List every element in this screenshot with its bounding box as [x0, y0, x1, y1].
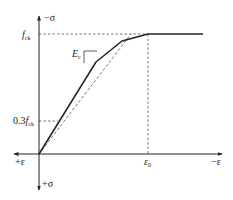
- stress-strain-diagram: −σ +σ +ε −ε fck 0.3fck Ec ε0: [0, 0, 233, 200]
- ec-label: Ec: [71, 48, 81, 60]
- fck-label: fck: [22, 29, 30, 41]
- eps0-label: ε0: [144, 156, 151, 168]
- y-bottom-label: +σ: [42, 178, 54, 189]
- stress-strain-curve: [39, 34, 203, 154]
- ec-slope-triangle: [84, 51, 97, 63]
- fck03-label: 0.3fck: [13, 115, 34, 127]
- tangent-modulus-line: [39, 34, 131, 154]
- x-left-label: +ε: [15, 156, 25, 167]
- y-top-label: −σ: [44, 12, 56, 23]
- x-right-label: −ε: [211, 156, 221, 167]
